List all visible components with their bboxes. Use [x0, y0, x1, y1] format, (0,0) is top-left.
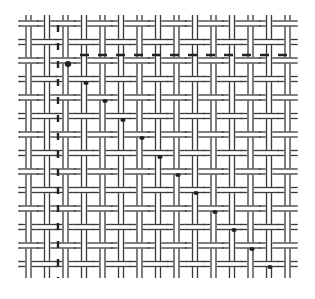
marker-dot	[65, 61, 71, 67]
weave-diagram	[0, 0, 315, 299]
marker-dot	[139, 136, 144, 140]
marker-dot	[267, 265, 272, 269]
marker-dot	[157, 155, 162, 159]
marker-dot	[193, 191, 198, 195]
marker-dot	[102, 99, 107, 103]
diagonal-markers	[65, 61, 273, 269]
marker-dot	[120, 118, 125, 122]
marker-dot	[175, 173, 180, 177]
marker-dot	[249, 247, 254, 251]
marker-dot	[212, 210, 217, 214]
marker-dot	[231, 228, 236, 232]
marker-dot	[83, 81, 88, 85]
weave-canvas	[0, 0, 315, 299]
